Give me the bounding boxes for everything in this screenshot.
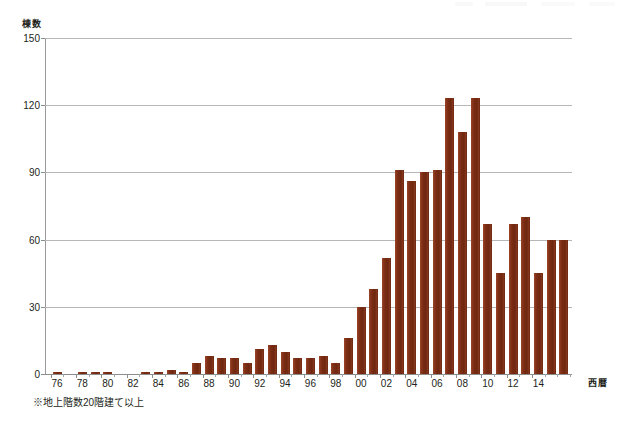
- x-tick-label: 08: [457, 378, 468, 389]
- bar: [395, 170, 404, 374]
- x-tick-label: 00: [356, 378, 367, 389]
- bar: [230, 358, 239, 374]
- bar: [547, 240, 556, 374]
- x-tick-label: 14: [533, 378, 544, 389]
- x-tick-label: 06: [432, 378, 443, 389]
- x-tick-mark: [139, 374, 140, 377]
- x-tick-mark: [393, 374, 394, 377]
- x-tick-mark: [418, 374, 419, 377]
- x-tick-label: 76: [51, 378, 62, 389]
- x-tick-label: 04: [406, 378, 417, 389]
- y-tick-label: 90: [29, 167, 40, 178]
- y-tick-label: 150: [23, 33, 40, 44]
- bar: [382, 258, 391, 374]
- x-tick-label: 96: [305, 378, 316, 389]
- bar: [243, 363, 252, 374]
- x-tick-mark: [342, 374, 343, 377]
- bar: [559, 240, 568, 374]
- x-tick-mark: [367, 374, 368, 377]
- bar: [369, 289, 378, 374]
- x-tick-mark: [469, 374, 470, 377]
- x-tick-mark: [165, 374, 166, 377]
- x-tick-mark: [89, 374, 90, 377]
- x-tick-mark: [317, 374, 318, 377]
- x-tick-label: 88: [203, 378, 214, 389]
- x-tick-mark: [114, 374, 115, 377]
- x-axis-tick-labels: 7678808284868890929496980002040608101214: [0, 378, 626, 394]
- bar: [445, 98, 454, 374]
- x-tick-label: 12: [508, 378, 519, 389]
- x-tick-mark: [545, 374, 546, 377]
- x-tick-label: 10: [482, 378, 493, 389]
- x-tick-label: 86: [178, 378, 189, 389]
- y-tick-label: 60: [29, 234, 40, 245]
- x-tick-mark: [519, 374, 520, 377]
- bar: [471, 98, 480, 374]
- y-tick-label: 120: [23, 100, 40, 111]
- bar: [331, 363, 340, 374]
- bar: [521, 217, 530, 374]
- bar: [420, 172, 429, 374]
- x-tick-mark: [63, 374, 64, 377]
- bar: [268, 345, 277, 374]
- x-tick-mark: [215, 374, 216, 377]
- bar: [483, 224, 492, 374]
- bar: [281, 352, 290, 374]
- x-tick-mark: [570, 374, 571, 377]
- chart-container: 棟数 西暦 0306090120150 76788082848688909294…: [0, 0, 626, 427]
- x-tick-mark: [557, 374, 558, 377]
- x-tick-label: 82: [127, 378, 138, 389]
- top-edge-artifact: [455, 2, 615, 6]
- x-tick-label: 80: [102, 378, 113, 389]
- bar: [496, 273, 505, 374]
- bar: [458, 132, 467, 374]
- bar: [534, 273, 543, 374]
- y-axis-title: 棟数: [22, 17, 41, 30]
- x-tick-label: 84: [153, 378, 164, 389]
- y-tick-label: 30: [29, 301, 40, 312]
- bar-series: [45, 38, 572, 374]
- chart-footnote: ※地上階数20階建て以上: [33, 394, 144, 409]
- bar: [509, 224, 518, 374]
- x-tick-label: 78: [77, 378, 88, 389]
- x-tick-mark: [443, 374, 444, 377]
- bar: [205, 356, 214, 374]
- x-tick-mark: [266, 374, 267, 377]
- bar: [357, 307, 366, 374]
- x-tick-mark: [494, 374, 495, 377]
- x-tick-mark: [291, 374, 292, 377]
- x-tick-label: 98: [330, 378, 341, 389]
- plot-area: 0306090120150: [45, 38, 572, 374]
- x-tick-mark: [241, 374, 242, 377]
- x-tick-label: 92: [254, 378, 265, 389]
- bar: [255, 349, 264, 374]
- x-tick-label: 02: [381, 378, 392, 389]
- bar: [344, 338, 353, 374]
- bar: [433, 170, 442, 374]
- x-tick-label: 90: [229, 378, 240, 389]
- bar: [192, 363, 201, 374]
- bar: [293, 358, 302, 374]
- bar: [319, 356, 328, 374]
- bar: [407, 181, 416, 374]
- bar: [306, 358, 315, 374]
- x-tick-label: 94: [280, 378, 291, 389]
- bar: [217, 358, 226, 374]
- x-tick-mark: [190, 374, 191, 377]
